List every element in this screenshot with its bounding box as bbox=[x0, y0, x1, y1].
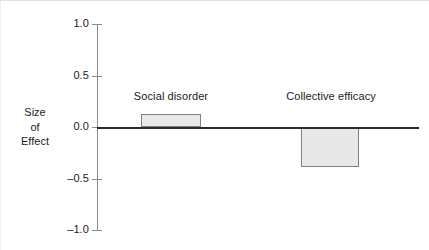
y-axis-title-line-1: Size bbox=[7, 105, 63, 120]
bar-collective-efficacy bbox=[301, 127, 359, 167]
y-tick-label-wrap-1.0: 1.0 bbox=[45, 17, 89, 31]
y-tick-label-4: –0.5 bbox=[45, 172, 89, 184]
y-tick--0.5 bbox=[92, 179, 102, 180]
bar-label-collective-efficacy: Collective efficacy bbox=[276, 90, 386, 102]
y-tick-0.5 bbox=[92, 76, 102, 77]
y-tick-label-2: 0.5 bbox=[45, 69, 89, 81]
y-tick-label-5: –1.0 bbox=[45, 223, 89, 235]
y-axis-title: Size of Effect bbox=[7, 105, 63, 149]
y-tick-label-wrap--1.0: –1.0 bbox=[45, 223, 89, 237]
bar-label-social-disorder: Social disorder bbox=[121, 90, 221, 102]
y-tick-1.0 bbox=[92, 24, 102, 25]
y-tick-label-wrap--0.5: –0.5 bbox=[45, 172, 89, 186]
y-axis-title-line-3: Effect bbox=[7, 134, 63, 149]
y-axis-title-line-2: of bbox=[7, 120, 63, 135]
y-tick-label-wrap-0.5: 0.5 bbox=[45, 69, 89, 83]
zero-baseline bbox=[97, 127, 419, 129]
bar-social-disorder bbox=[141, 114, 201, 127]
y-tick--1.0 bbox=[92, 230, 102, 231]
effect-size-bar-chart: 1.0 0.5 0.0 –0.5 –1.0 Size of Effect Soc… bbox=[0, 0, 429, 250]
y-tick-label-1: 1.0 bbox=[45, 17, 89, 29]
